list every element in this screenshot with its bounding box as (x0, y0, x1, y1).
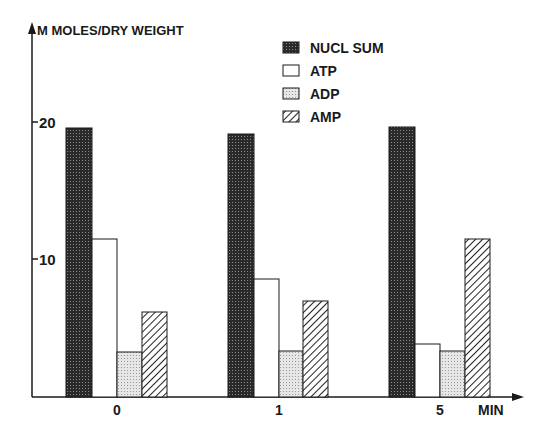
x-tick-5: 5 (436, 402, 444, 418)
bar-chart: 20 10 M MOLES/DRY WEIGHT 0 1 5 MIN NUCL … (0, 0, 545, 436)
bar-nucl-sum (389, 127, 415, 397)
bar-amp (303, 301, 328, 397)
bar-atp (415, 344, 440, 397)
x-tick-1: 1 (275, 402, 283, 418)
legend-label-nucl-sum: NUCL SUM (310, 40, 384, 56)
bar-group-5 (389, 127, 490, 397)
y-tick-20: 20 (39, 114, 56, 131)
x-axis-label: MIN (478, 402, 504, 418)
x-tick-0: 0 (113, 402, 121, 418)
bar-adp (440, 351, 465, 397)
y-axis-arrow-icon (28, 22, 36, 34)
bar-adp (279, 351, 303, 397)
bar-adp (117, 352, 142, 397)
bar-atp (254, 279, 279, 397)
legend-swatch-amp (283, 111, 299, 122)
bar-group-0 (66, 128, 167, 397)
legend-label-adp: ADP (310, 86, 340, 102)
x-axis-arrow-icon (512, 393, 524, 401)
legend-swatch-atp (283, 65, 299, 76)
legend: NUCL SUM ATP ADP AMP (283, 40, 384, 125)
legend-label-atp: ATP (310, 63, 337, 79)
bar-nucl-sum (228, 134, 254, 397)
bar-amp (142, 312, 167, 397)
legend-swatch-adp (283, 88, 299, 99)
legend-swatch-nucl-sum (283, 42, 299, 53)
bar-nucl-sum (66, 128, 92, 397)
y-tick-10: 10 (39, 251, 56, 268)
bar-group-1 (228, 134, 328, 397)
bar-amp (465, 239, 490, 397)
y-axis-label: M MOLES/DRY WEIGHT (37, 23, 184, 38)
legend-label-amp: AMP (310, 109, 341, 125)
bar-atp (92, 239, 117, 397)
